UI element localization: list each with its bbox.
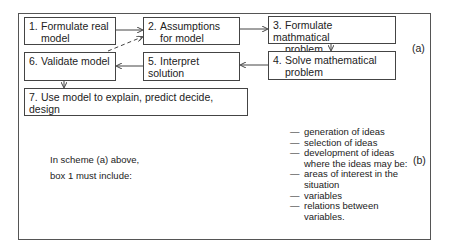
box-7-use-model: 7.Use model to explain, predict decide, … bbox=[24, 88, 248, 116]
list-item-text: situation bbox=[304, 179, 339, 190]
box-number: 4. bbox=[273, 54, 285, 66]
box-text: Solve mathematical bbox=[285, 54, 377, 66]
list-item-text: relations between bbox=[304, 200, 378, 211]
box-5-interpret-solution: 5.Interpret solution bbox=[143, 52, 240, 81]
box-3-formulate-math-problem: 3.Formulate mathmatical problem bbox=[268, 16, 396, 44]
list-item-text: development of ideas bbox=[304, 147, 394, 158]
list-item-text: selection of ideas bbox=[304, 137, 377, 148]
list-item-text: where the ideas may be: bbox=[304, 158, 408, 169]
scheme-b-intro-line2: box 1 must include: bbox=[50, 170, 132, 182]
list-item-text: generation of ideas bbox=[304, 126, 385, 137]
list-item-text: variables. bbox=[304, 211, 345, 222]
box-text: Formulate real bbox=[41, 20, 109, 32]
scheme-b-intro-line1: In scheme (a) above, bbox=[50, 154, 139, 166]
dash-bullet: — bbox=[290, 201, 300, 212]
box-number: 5. bbox=[148, 55, 160, 67]
box-text: problem bbox=[273, 66, 391, 78]
dash-bullet: — bbox=[290, 148, 300, 159]
box-text: model bbox=[29, 32, 111, 44]
box-1-formulate-real-model: 1.Formulate real model bbox=[24, 17, 116, 45]
dash-bullet: — bbox=[290, 169, 300, 180]
scheme-a-label: (a) bbox=[412, 42, 425, 54]
box-number: 1. bbox=[29, 20, 41, 32]
box-number: 2. bbox=[148, 20, 160, 32]
box-text: Validate model bbox=[41, 55, 110, 67]
scheme-b-label: (b) bbox=[413, 154, 426, 166]
box-6-validate-model: 6.Validate model bbox=[24, 52, 116, 81]
list-item: variables. bbox=[290, 212, 408, 223]
box-number: 6. bbox=[29, 55, 41, 67]
box-number: 7. bbox=[29, 91, 41, 103]
list-item-text: areas of interest in the bbox=[304, 168, 398, 179]
box-text: for model bbox=[148, 32, 235, 44]
box-number: 3. bbox=[273, 19, 285, 31]
dash-bullet: — bbox=[290, 127, 300, 138]
box-text: Use model to explain, predict decide, de… bbox=[29, 91, 213, 115]
box-2-assumptions: 2.Assumptions for model bbox=[143, 17, 240, 45]
list-item-text: variables bbox=[304, 190, 342, 201]
box1-requirements-list: —generation of ideas —selection of ideas… bbox=[290, 127, 408, 222]
box-text: Assumptions bbox=[160, 20, 220, 32]
box-4-solve-math-problem: 4.Solve mathematical problem bbox=[268, 51, 396, 80]
